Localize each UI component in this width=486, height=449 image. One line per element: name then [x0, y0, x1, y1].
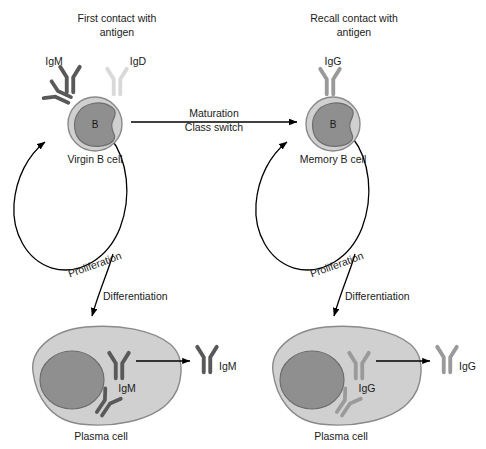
igm-receptor-icon-tilted [44, 81, 74, 108]
right-proliferation-label: Proliferation [308, 249, 365, 279]
left-plasma-cell-label: Plasma cell [74, 430, 128, 442]
right-plasma-cell-nucleus [280, 351, 344, 409]
left-differentiation-label: Differentiation [103, 290, 168, 302]
left-plasma-cell-nucleus [40, 351, 104, 409]
left-title-line1: First contact with [78, 12, 157, 24]
right-title-line2: antigen [337, 26, 372, 38]
igm-receptor-icon-upright [60, 67, 80, 92]
right-differentiation-label: Differentiation [345, 290, 410, 302]
left-title-line2: antigen [100, 26, 135, 38]
left-plasma-ig-label: IgM [118, 382, 136, 394]
virgin-b-cell-label: Virgin B cell [67, 153, 122, 165]
right-plasma-ig-label: IgG [359, 382, 376, 394]
right-plasma-cell-label: Plasma cell [314, 430, 368, 442]
maturation-label: Maturation [189, 107, 239, 119]
igg-receptor-label: IgG [325, 55, 342, 67]
virgin-b-cell-letter: B [92, 119, 99, 130]
memory-b-cell-label: Memory B cell [300, 153, 367, 165]
right-secreted-ig-label: IgG [459, 360, 476, 372]
memory-b-cell-letter: B [330, 119, 337, 130]
b-cell-maturation-diagram: First contact with antigen Recall contac… [0, 0, 486, 449]
igd-receptor-label: IgD [130, 55, 147, 67]
class-switch-label: Class switch [185, 121, 244, 133]
left-proliferation-label: Proliferation [66, 249, 123, 279]
right-title-line1: Recall contact with [310, 12, 398, 24]
left-secreted-ig-label: IgM [219, 360, 237, 372]
igg-receptor-icon [320, 69, 340, 94]
diagram-canvas: First contact with antigen Recall contac… [0, 0, 486, 449]
left-secreted-igm-icon [197, 347, 217, 372]
igm-receptor-label: IgM [45, 55, 63, 67]
right-secreted-igg-icon [437, 347, 457, 372]
igd-receptor-icon [107, 69, 127, 94]
